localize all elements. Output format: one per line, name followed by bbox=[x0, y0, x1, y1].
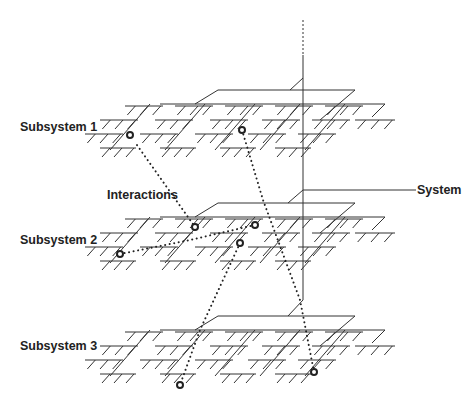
interaction-link bbox=[180, 243, 240, 385]
label-subsystem-1: Subsystem 1 bbox=[20, 120, 97, 134]
label-subsystem-2: Subsystem 2 bbox=[20, 233, 97, 247]
subsystem-tree-2 bbox=[85, 203, 395, 270]
interaction-node bbox=[311, 369, 317, 375]
label-interactions: Interactions bbox=[107, 188, 178, 202]
interaction-nodes bbox=[117, 127, 317, 388]
system-axis bbox=[288, 20, 416, 316]
interaction-link bbox=[137, 145, 195, 227]
label-system: System bbox=[417, 183, 461, 197]
interaction-node bbox=[192, 224, 198, 230]
interaction-node bbox=[127, 132, 133, 138]
subsystem-tree-1 bbox=[85, 90, 395, 157]
interaction-link bbox=[120, 225, 255, 254]
interaction-node bbox=[252, 222, 258, 228]
interaction-node bbox=[239, 127, 245, 133]
label-subsystem-3: Subsystem 3 bbox=[20, 339, 97, 353]
subsystem-tree-3 bbox=[85, 316, 395, 383]
interaction-node bbox=[177, 382, 183, 388]
interaction-node bbox=[237, 240, 243, 246]
interaction-node bbox=[117, 251, 123, 257]
